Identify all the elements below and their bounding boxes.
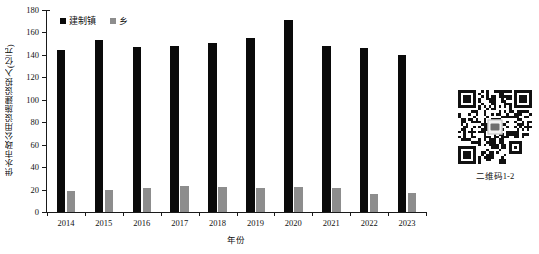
x-axis-tick: [85, 212, 86, 216]
bar-建制镇-2021: [322, 46, 331, 212]
y-axis-tick: [42, 55, 47, 56]
y-axis-tick: [42, 32, 47, 33]
y-axis-tick: [42, 10, 47, 11]
y-axis-tick-label: 160: [26, 27, 39, 37]
x-axis-tick: [123, 212, 124, 216]
bar-乡-2018: [218, 187, 227, 212]
bar-建制镇-2016: [133, 47, 142, 212]
legend-swatch-icon: [110, 18, 116, 24]
x-axis-tick: [388, 212, 389, 216]
x-axis-tick-label: 2023: [399, 218, 416, 228]
y-axis-tick: [42, 190, 47, 191]
x-axis-tick: [199, 212, 200, 216]
x-axis-tick: [426, 212, 427, 216]
x-axis-tick-label: 2014: [57, 218, 74, 228]
bar-乡-2021: [332, 188, 341, 212]
bar-建制镇-2017: [170, 46, 179, 212]
x-axis-tick-label: 2019: [247, 218, 264, 228]
qr-center-logo-glyph: [491, 124, 500, 131]
bar-乡-2023: [408, 193, 417, 212]
y-axis-tick: [42, 77, 47, 78]
y-axis-tick-label: 0: [35, 207, 39, 217]
bar-建制镇-2022: [360, 48, 369, 212]
x-axis-tick: [350, 212, 351, 216]
y-axis-tick: [42, 167, 47, 168]
x-axis-tick-label: 2022: [361, 218, 378, 228]
x-axis-tick: [312, 212, 313, 216]
y-axis-tick: [42, 122, 47, 123]
qr-caption: 二维码1-2: [476, 169, 514, 181]
y-axis-tick-label: 180: [26, 5, 39, 15]
bar-建制镇-2023: [398, 55, 407, 212]
x-axis-title: 年份: [46, 233, 426, 245]
bar-建制镇-2018: [208, 43, 217, 212]
legend-item-xiang: 乡: [110, 14, 128, 27]
y-axis-tick-label: 140: [26, 50, 39, 60]
y-axis-tick-label: 20: [31, 185, 40, 195]
bar-乡-2017: [180, 186, 189, 212]
x-axis-tick-label: 2020: [285, 218, 302, 228]
y-axis-tick: [42, 145, 47, 146]
x-axis-tick-label: 2017: [171, 218, 188, 228]
y-axis-tick: [42, 100, 47, 101]
chart-legend: 建制镇 乡: [60, 14, 128, 27]
bar-乡-2014: [67, 191, 76, 212]
x-axis-tick: [274, 212, 275, 216]
bar-乡-2016: [143, 188, 152, 212]
bar-建制镇-2020: [284, 20, 293, 212]
x-axis-tick-label: 2015: [95, 218, 112, 228]
legend-item-jianzhizhen: 建制镇: [60, 14, 96, 27]
x-axis-tick: [161, 212, 162, 216]
legend-label: 乡: [119, 14, 128, 27]
bar-乡-2019: [256, 188, 265, 212]
legend-swatch-icon: [60, 18, 66, 24]
legend-label: 建制镇: [69, 14, 96, 27]
bar-建制镇-2014: [57, 50, 66, 212]
qr-code-block[interactable]: 二维码1-2: [455, 90, 535, 181]
qr-code-image[interactable]: [458, 90, 532, 164]
x-axis-tick-label: 2018: [209, 218, 226, 228]
qr-center-logo-icon: [488, 120, 503, 135]
x-axis-tick: [47, 212, 48, 216]
y-axis-tick-label: 40: [31, 162, 40, 172]
y-axis-tick-label: 60: [31, 140, 40, 150]
bar-建制镇-2015: [95, 40, 104, 212]
bar-乡-2020: [294, 187, 303, 212]
bar-chart: 供水市政公用设施建设投入(亿元) 02040608010012014016018…: [0, 0, 440, 254]
y-axis-tick-label: 100: [26, 95, 39, 105]
y-axis-tick-label: 120: [26, 72, 39, 82]
bar-乡-2022: [370, 194, 379, 212]
bar-乡-2015: [105, 190, 114, 212]
y-axis-tick-label: 80: [31, 117, 40, 127]
y-axis-title: 供水市政公用设施建设投入(亿元): [2, 0, 18, 220]
x-axis-tick: [237, 212, 238, 216]
plot-area: 0204060801001201401601802014201520162017…: [46, 10, 426, 213]
x-axis-tick-label: 2016: [133, 218, 150, 228]
bar-建制镇-2019: [246, 38, 255, 212]
x-axis-tick-label: 2021: [323, 218, 340, 228]
figure-root: 供水市政公用设施建设投入(亿元) 02040608010012014016018…: [0, 0, 539, 254]
